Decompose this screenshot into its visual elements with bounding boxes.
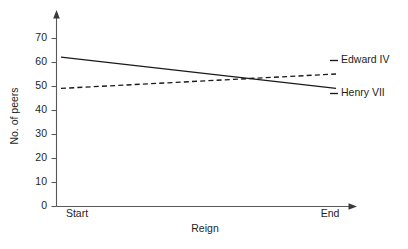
line-chart: 0 10 20 30 40 50 60 70 Start End Reign N… bbox=[0, 0, 408, 249]
y-tick-label-30: 30 bbox=[35, 127, 47, 139]
x-category-label-start: Start bbox=[66, 207, 88, 219]
y-axis bbox=[53, 10, 60, 207]
y-tick-label-40: 40 bbox=[35, 103, 47, 115]
y-tick-label-70: 70 bbox=[35, 31, 47, 43]
y-axis-title: No. of peers bbox=[8, 87, 20, 144]
y-tick-label-10: 10 bbox=[35, 175, 47, 187]
y-tick-label-50: 50 bbox=[35, 79, 47, 91]
series-line-henry-vii bbox=[61, 57, 336, 88]
x-axis bbox=[57, 203, 358, 210]
y-axis-arrow-icon bbox=[53, 10, 60, 19]
series-line-edward-iv bbox=[61, 74, 336, 88]
y-tick-label-60: 60 bbox=[35, 55, 47, 67]
y-tick-labels: 0 10 20 30 40 50 60 70 bbox=[35, 31, 47, 211]
series-label-henry-vii: Henry VII bbox=[341, 86, 385, 98]
chart-canvas: 0 10 20 30 40 50 60 70 Start End Reign N… bbox=[0, 0, 408, 249]
y-tick-marks bbox=[52, 39, 57, 207]
x-axis-arrow-icon bbox=[349, 203, 358, 210]
y-tick-label-20: 20 bbox=[35, 151, 47, 163]
x-category-label-end: End bbox=[321, 207, 340, 219]
y-tick-label-0: 0 bbox=[41, 199, 47, 211]
x-axis-title: Reign bbox=[191, 222, 219, 234]
series-label-edward-iv: Edward IV bbox=[341, 53, 389, 65]
